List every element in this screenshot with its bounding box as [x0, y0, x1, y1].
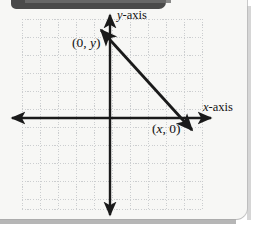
x-intercept-label-close: , 0) — [163, 121, 181, 136]
x-axis-label-suffix: -axis — [209, 100, 233, 114]
y-axis-label-suffix: -axis — [123, 8, 147, 22]
x-axis-label: x-axis — [203, 101, 233, 114]
page-gutter — [0, 224, 256, 233]
grid-lines — [22, 19, 202, 209]
y-axis-label: y-axis — [117, 9, 147, 22]
y-intercept-label-open: (0, — [72, 35, 90, 50]
x-intercept-label: (x, 0) — [152, 122, 181, 136]
figure-page: y-axis x-axis (0, y) (x, 0) — [0, 0, 256, 233]
y-intercept-label: (0, y) — [72, 36, 101, 50]
plotted-line — [101, 30, 192, 130]
y-intercept-label-close: ) — [96, 35, 101, 50]
